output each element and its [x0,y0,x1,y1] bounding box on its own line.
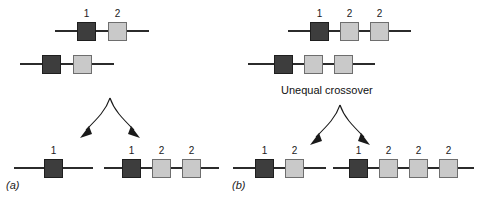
chromosome-arm-right [63,167,93,169]
segment-label: 1 [317,8,323,20]
chromosome-arm-right [127,30,149,32]
chromosome-arm-right [353,63,375,65]
segment-label: 1 [262,145,268,157]
chromosome-segment: 1 [310,22,329,41]
segment-label: 1 [84,8,90,20]
chromosome-arm-left [20,63,42,65]
chromosome-segment [42,55,61,74]
chromosome-segment: 2 [379,159,398,178]
segment-label: 1 [51,145,57,157]
panel-a-parent-chromosome-bottom [20,51,114,77]
panel-label-a: (a) [6,179,19,191]
chromosome-segment: 2 [108,22,127,41]
chromosome-arm-left [104,167,122,169]
chromosome-segment: 2 [439,159,458,178]
panel-a-product-chromosome-right: 1 2 2 [104,155,219,181]
chromosome-arm-mid [323,63,334,65]
chromosome-arm-right [201,167,219,169]
panel-a-product-chromosome-left: 1 [14,155,93,181]
segment-label: 2 [292,145,298,157]
chromosome-arm-mid [398,167,409,169]
chromosome-arm-mid [171,167,182,169]
chromosome-arm-mid [368,167,379,169]
panel-b-product-chromosome-right: 1 2 2 2 [333,155,474,181]
segment-label: 2 [347,8,353,20]
segment-label: 2 [446,145,452,157]
chromosome-segment: 1 [44,159,63,178]
chromosome-arm-mid [428,167,439,169]
chromosome-arm-mid [96,30,108,32]
figure-canvas: 1 2 1 1 [0,0,479,200]
chromosome-arm-left [248,63,274,65]
panel-label-b: (b) [232,179,245,191]
panel-b-parent-chromosome-top: 1 2 2 [288,18,411,44]
chromosome-segment: 2 [409,159,428,178]
chromosome-arm-mid [61,63,73,65]
segment-label: 1 [129,145,135,157]
chromosome-arm-mid [293,63,304,65]
chromosome-arm-right [92,63,114,65]
chromosome-arm-left [55,30,77,32]
panel-b-product-chromosome-left: 1 2 [233,155,326,181]
chromosome-segment: 1 [122,159,141,178]
segment-label: 2 [416,145,422,157]
chromosome-segment [274,55,293,74]
chromosome-segment: 2 [370,22,389,41]
panel-a-crossover-arrows [62,96,158,144]
chromosome-segment [334,55,353,74]
unequal-crossover-label: Unequal crossover [281,84,373,96]
chromosome-segment [304,55,323,74]
chromosome-segment: 1 [349,159,368,178]
chromosome-arm-left [14,167,44,169]
chromosome-segment: 1 [77,22,96,41]
panel-a-parent-chromosome-top: 1 2 [55,18,149,44]
segment-label: 1 [356,145,362,157]
chromosome-segment: 2 [285,159,304,178]
segment-label: 2 [159,145,165,157]
panel-b-parent-chromosome-bottom [248,51,375,77]
panel-b-crossover-arrows [292,103,388,151]
chromosome-segment: 2 [340,22,359,41]
segment-label: 2 [115,8,121,20]
chromosome-segment [73,55,92,74]
chromosome-arm-right [389,30,411,32]
chromosome-arm-left [233,167,255,169]
chromosome-arm-left [288,30,310,32]
segment-label: 2 [189,145,195,157]
chromosome-arm-mid [359,30,370,32]
chromosome-segment: 2 [182,159,201,178]
chromosome-arm-mid [274,167,285,169]
chromosome-arm-left [333,167,349,169]
chromosome-arm-mid [141,167,152,169]
chromosome-segment: 1 [255,159,274,178]
chromosome-arm-right [458,167,474,169]
segment-label: 2 [386,145,392,157]
chromosome-arm-right [304,167,326,169]
chromosome-arm-mid [329,30,340,32]
chromosome-segment: 2 [152,159,171,178]
segment-label: 2 [377,8,383,20]
